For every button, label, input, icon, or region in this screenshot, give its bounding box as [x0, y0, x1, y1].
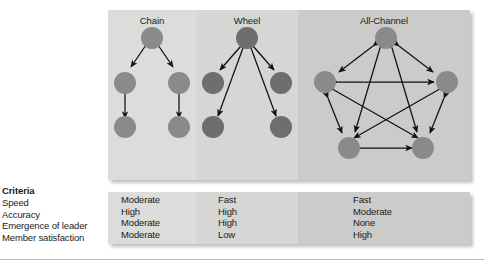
table-cell: High	[196, 206, 298, 218]
criteria-heading: Criteria	[2, 185, 108, 197]
table-cell: High	[108, 206, 196, 218]
bottom-divider	[0, 259, 484, 260]
chain-network-graph	[108, 10, 196, 180]
table-cell: Moderate	[108, 194, 196, 206]
communication-networks-figure: Criteria Speed Accuracy Emergence of lea…	[0, 0, 494, 268]
table-cell: High	[196, 217, 298, 229]
table-cell: Low	[196, 229, 298, 241]
criteria-label-member-satisfaction: Member satisfaction	[2, 232, 108, 244]
table-column-all-channel: Fast Moderate None High	[298, 192, 470, 244]
wheel-nodes	[202, 27, 292, 138]
table-cell: Moderate	[108, 217, 196, 229]
table-cell: None	[298, 217, 470, 229]
all-channel-nodes	[314, 27, 458, 159]
criteria-label-emergence-of-leader: Emergence of leader	[2, 220, 108, 232]
criteria-label-column: Criteria Speed Accuracy Emergence of lea…	[2, 185, 108, 243]
table-column-chain: Moderate High Moderate Moderate	[108, 192, 196, 244]
network-panel-wheel: Wheel	[196, 10, 298, 180]
all-channel-network-graph	[298, 10, 470, 180]
network-panel-chain: Chain	[108, 10, 196, 180]
table-cell: Fast	[298, 194, 470, 206]
wheel-network-graph	[196, 10, 298, 180]
criteria-label-accuracy: Accuracy	[2, 209, 108, 221]
table-cell: Fast	[196, 194, 298, 206]
network-diagram-band: Chain	[108, 10, 470, 180]
table-column-wheel: Fast High High Low	[196, 192, 298, 244]
criteria-label-speed: Speed	[2, 197, 108, 209]
table-cell: Moderate	[298, 206, 470, 218]
chain-nodes	[114, 27, 190, 138]
table-cell: Moderate	[108, 229, 196, 241]
criteria-values-table: Moderate High Moderate Moderate Fast Hig…	[108, 192, 470, 244]
network-panel-all-channel: All-Channel	[298, 10, 470, 180]
table-cell: High	[298, 229, 470, 241]
